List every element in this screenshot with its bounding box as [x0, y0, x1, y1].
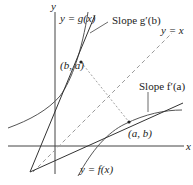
diagram-svg: y x y = g(x) y = f(x) y = x (b, a) (a, b…	[0, 0, 193, 185]
inverse-derivative-diagram: y x y = g(x) y = f(x) y = x (b, a) (a, b…	[0, 0, 193, 185]
slope-g-label: Slope g′(b)	[112, 14, 161, 27]
y-axis-label: y	[50, 0, 56, 12]
reflection-connector	[81, 62, 129, 122]
g-tangent-line	[30, 15, 95, 172]
f-curve-label: y = f(x)	[79, 163, 113, 176]
slope-f-label: Slope f′(a)	[139, 80, 185, 93]
point-ab-label: (a, b)	[128, 127, 152, 140]
f-tangent-line	[30, 103, 183, 172]
diagonal-label: y = x	[160, 24, 184, 36]
point-ab	[127, 120, 130, 123]
point-ba-label: (b, a)	[60, 59, 84, 72]
x-axis-label: x	[185, 140, 191, 152]
g-curve-label: y = g(x)	[59, 12, 96, 25]
